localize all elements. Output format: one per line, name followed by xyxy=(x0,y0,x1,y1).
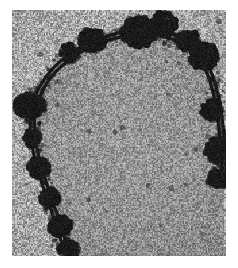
micrograph-image-frame xyxy=(12,10,226,256)
micrograph-title: Electron micrograph of an arched membran… xyxy=(0,0,1,1)
electron-micrograph-image xyxy=(12,10,226,256)
micrograph-figure: Electron micrograph of an arched membran… xyxy=(0,0,238,268)
